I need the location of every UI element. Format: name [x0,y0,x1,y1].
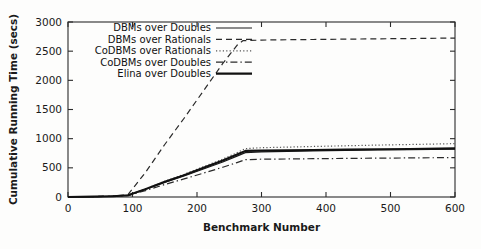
x-tick-label: 600 [445,202,465,214]
legend-label-3: CoDBMs over Doubles [100,57,211,68]
series-line-4 [68,148,455,197]
y-axis-title: Cumulative Running Time (secs) [7,14,19,205]
x-tick-label: 300 [251,202,271,214]
x-tick-label: 0 [65,202,72,214]
legend-label-2: CoDBMs over Rationals [95,45,211,56]
y-tick-label: 1500 [35,103,62,115]
y-tick-label: 1000 [35,132,62,144]
y-tick-label: 500 [42,161,62,173]
x-tick-label: 500 [380,202,400,214]
legend-label-4: Elina over Doubles [117,68,211,79]
series-line-3 [68,158,455,197]
x-axis-title: Benchmark Number [203,221,321,233]
legend-label-1: DBMs over Rationals [108,34,211,45]
x-tick-label: 200 [187,202,207,214]
series-line-0 [68,149,455,197]
y-tick-label: 2500 [35,45,62,57]
legend-label-0: DBMs over Doubles [113,22,211,33]
line-chart: 0500100015002000250030000100200300400500… [0,0,481,249]
y-tick-label: 2000 [35,74,62,86]
y-tick-label: 3000 [35,16,62,28]
x-tick-label: 400 [316,202,336,214]
y-tick-label: 0 [55,191,62,203]
x-tick-label: 100 [122,202,142,214]
chart-figure: 0500100015002000250030000100200300400500… [0,0,481,249]
